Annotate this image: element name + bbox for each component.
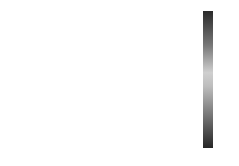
colorbar [203, 11, 213, 148]
